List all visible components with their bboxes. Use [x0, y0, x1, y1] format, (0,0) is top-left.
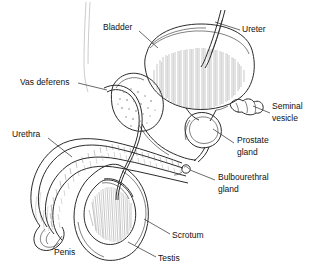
anatomy-figure: Bladder Ureter Vas deferens Seminal vesi… [0, 0, 317, 278]
label-ureter: Ureter [242, 24, 266, 34]
label-seminal-vesicle-line1: Seminal [272, 101, 303, 111]
label-vas-deferens: Vas deferens [20, 77, 69, 87]
label-testis: Testis [158, 253, 180, 263]
label-penis: Penis [54, 247, 75, 257]
label-bladder: Bladder [103, 22, 132, 32]
label-prostate-gland-line1: Prostate [237, 135, 269, 145]
label-bulbourethral-gland-line1: Bulbourethral [218, 172, 269, 182]
label-prostate-gland-line2: gland [237, 147, 258, 157]
label-scrotum: Scrotum [172, 230, 204, 240]
label-seminal-vesicle-line2: vesicle [272, 113, 298, 123]
label-urethra: Urethra [12, 129, 41, 139]
figure-background [0, 0, 317, 278]
male-reproductive-system-diagram: Bladder Ureter Vas deferens Seminal vesi… [0, 0, 317, 278]
label-bulbourethral-gland-line2: gland [218, 184, 239, 194]
